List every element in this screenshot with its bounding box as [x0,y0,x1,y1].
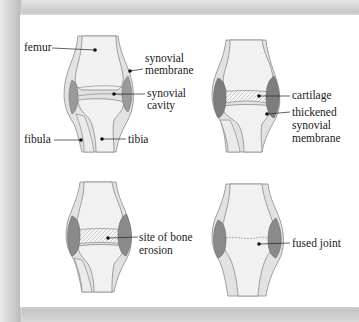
eroded-knee-illustration [66,182,138,292]
label-femur: femur [24,41,51,54]
label-thickened-membrane-line2: synovial [292,119,331,132]
label-synovial-membrane-line2: membrane [145,64,194,77]
label-tibia: tibia [128,133,148,146]
label-fibula: fibula [24,133,51,146]
inflamed-knee-illustration [212,40,290,152]
label-cartilage: cartilage [292,89,332,102]
label-bone-erosion-line2: erosion [139,244,173,257]
label-thickened-membrane-line1: thickened [292,106,337,119]
knee-diagrams [0,0,359,322]
label-thickened-membrane-line3: membrane [292,132,341,145]
label-synovial-cavity-line2: cavity [147,99,175,112]
fused-knee-illustration [212,184,290,296]
label-fused-joint: fused joint [292,237,341,250]
label-bone-erosion-line1: site of bone [139,231,193,244]
